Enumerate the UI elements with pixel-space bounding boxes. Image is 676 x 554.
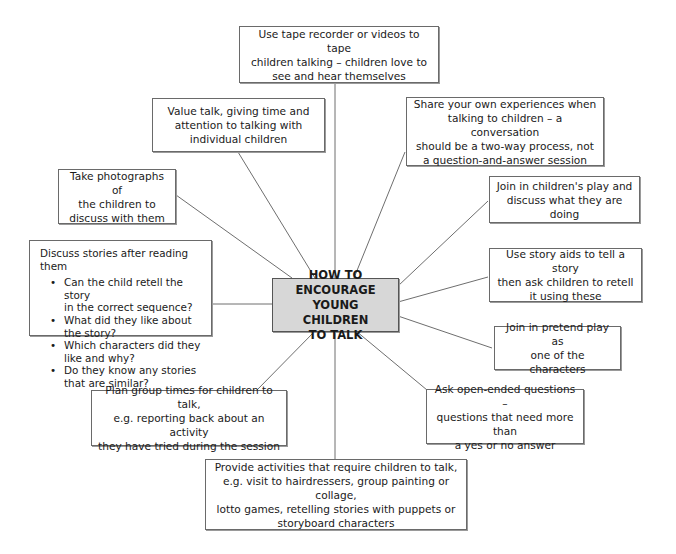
node-text-line: discuss with them <box>65 211 169 225</box>
node-text-line: then ask children to retell <box>496 275 635 289</box>
node-discuss-stories: Discuss stories after reading them Can t… <box>29 240 212 336</box>
center-title-line: HOW TO ENCOURAGE <box>279 268 392 298</box>
bullet-line: What did they like about <box>64 314 201 327</box>
node-text-line: should be a two-way process, not <box>413 139 597 153</box>
node-text-line: a yes or no answer <box>433 438 577 452</box>
node-text-line: talking to children – a conversation <box>413 111 597 139</box>
node-text-line: Take photographs of <box>65 169 169 197</box>
node-text-line: questions that need more than <box>433 410 577 438</box>
bullet-line: in the correct sequence? <box>64 301 201 314</box>
bullet-line: the story? <box>64 327 201 340</box>
node-pretend-play: Join in pretend play as one of the chara… <box>494 326 621 370</box>
node-text-line: they have tried during the session <box>98 439 280 453</box>
node-text-line: a question-and-answer session <box>413 153 597 167</box>
bullet-list: Can the child retell the story in the co… <box>40 276 201 389</box>
bullet-line: Can the child retell the story <box>64 276 201 301</box>
node-text-line: Join in children's play and <box>496 179 633 193</box>
node-text-line: Share your own experiences when <box>413 97 597 111</box>
center-title-line: TO TALK <box>279 328 392 343</box>
node-text-line: it using these <box>496 289 635 303</box>
node-group-times: Plan group times for children to talk, e… <box>91 390 287 446</box>
node-text-line: e.g. visit to hairdressers, group painti… <box>212 474 460 502</box>
node-text-line: Use story aids to tell a story <box>496 247 635 275</box>
bullet-line: like and why? <box>64 352 201 365</box>
node-provide-activities: Provide activities that require children… <box>205 459 467 530</box>
node-text-line: individual children <box>168 132 310 146</box>
node-text-line: Ask open-ended questions – <box>433 382 577 410</box>
node-text-line: Plan group times for children to talk, <box>98 383 280 411</box>
node-text-line: Provide activities that require children… <box>212 460 460 474</box>
node-value-talk: Value talk, giving time and attention to… <box>152 98 325 152</box>
node-tape-recorder: Use tape recorder or videos to tape chil… <box>239 26 439 83</box>
bullet-line: Do they know any stories <box>64 364 201 377</box>
node-take-photographs: Take photographs of the children to disc… <box>58 169 176 224</box>
node-heading: Discuss stories after reading them <box>40 247 201 272</box>
bullet-item: Can the child retell the story in the co… <box>52 276 201 314</box>
node-text-line: see and hear themselves <box>246 69 432 83</box>
node-text-line: children talking – children love to <box>246 55 432 69</box>
node-text-line: Join in pretend play as <box>501 320 614 348</box>
node-open-ended-questions: Ask open-ended questions – questions tha… <box>426 389 584 444</box>
node-text-line: Value talk, giving time and <box>168 104 310 118</box>
node-text-line: the children to <box>65 197 169 211</box>
node-story-aids: Use story aids to tell a story then ask … <box>489 248 642 302</box>
node-text-line: discuss what they are doing <box>496 193 633 221</box>
node-text-line: e.g. reporting back about an activity <box>98 411 280 439</box>
center-title-line: YOUNG CHILDREN <box>279 298 392 328</box>
node-text-line: storyboard characters <box>212 516 460 530</box>
node-text-line: attention to talking with <box>168 118 310 132</box>
node-text-line: Use tape recorder or videos to tape <box>246 27 432 55</box>
bullet-item: What did they like about the story? <box>52 314 201 339</box>
node-share-experiences: Share your own experiences when talking … <box>406 97 604 166</box>
node-text-line: one of the characters <box>501 348 614 376</box>
node-text-line: lotto games, retelling stories with pupp… <box>212 502 460 516</box>
center-topic: HOW TO ENCOURAGE YOUNG CHILDREN TO TALK <box>272 278 399 332</box>
bullet-item: Which characters did they like and why? <box>52 339 201 364</box>
node-join-play: Join in children's play and discuss what… <box>489 176 640 223</box>
bullet-line: Which characters did they <box>64 339 201 352</box>
